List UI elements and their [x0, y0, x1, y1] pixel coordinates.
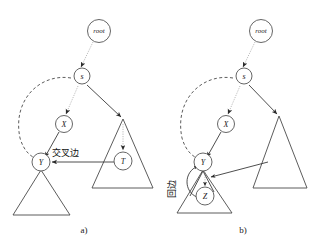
back-edge-label: 回边 [167, 180, 177, 198]
caption-panel-a: a) [81, 225, 88, 235]
svg-text:T: T [121, 157, 126, 166]
node-root-a: root [88, 20, 111, 43]
panel-b: 回边 root s X Y Z b) [167, 20, 307, 236]
edge-s-to-subtree-a [87, 85, 121, 117]
panel-a: 交叉边 root s X Y T a) [13, 20, 153, 236]
node-s-a: s [74, 68, 90, 84]
node-z-b: Z [196, 187, 214, 205]
svg-text:s: s [242, 72, 245, 81]
node-x-b: X [218, 116, 235, 133]
caption-panel-b: b) [239, 225, 247, 235]
node-t-a: T [114, 152, 132, 170]
edge-root-to-s-a [81, 42, 93, 67]
node-root-b: root [250, 20, 273, 43]
cross-edge-label: 交叉边 [52, 147, 79, 158]
node-x-a: X [56, 116, 73, 133]
svg-text:Z: Z [203, 192, 208, 201]
svg-text:root: root [93, 27, 105, 35]
node-y-b: Y [194, 153, 212, 171]
svg-text:s: s [80, 72, 83, 81]
edge-x-to-y-b [207, 132, 221, 157]
subtree-triangle-y-a [13, 170, 70, 215]
node-y-a: Y [32, 153, 50, 171]
node-s-b: s [236, 68, 252, 84]
figure-container: 交叉边 root s X Y T a) [0, 0, 317, 246]
edge-s-to-subtree-b [249, 85, 277, 114]
svg-text:root: root [255, 27, 267, 35]
subtree-triangle-right-b [253, 116, 307, 188]
edge-root-to-s-b [243, 42, 255, 67]
edge-s-to-x-b [228, 86, 240, 114]
dfs-edge-classification-diagram: 交叉边 root s X Y T a) [0, 0, 317, 246]
edge-s-to-x-a [66, 86, 78, 114]
